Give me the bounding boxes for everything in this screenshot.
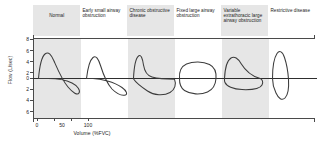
y-axis-tick-label: 4: [26, 97, 29, 103]
x-axis-tick-mark: [37, 118, 38, 121]
x-axis-tick-mark: [88, 118, 89, 121]
panel-header-label: Fixed large airway obstruction: [177, 8, 220, 19]
y-axis-tick-mark: [30, 111, 33, 112]
y-axis-tick-label: 4: [26, 59, 29, 65]
y-axis-tick-mark: [30, 50, 33, 51]
panel-header-label: Variable extrathoracic large airway obst…: [224, 8, 267, 24]
y-axis-tick-mark: [30, 100, 33, 101]
y-axis: Flow (L/sec) 8 6 4 2 0 2 4 6: [0, 39, 33, 118]
x-axis-tick-mark: [54, 118, 55, 121]
y-axis-tick-mark: [30, 72, 33, 73]
x-axis-tick-label: 100: [84, 122, 92, 128]
plot-frame-top: [33, 38, 315, 39]
y-axis-tick-label: 6: [26, 48, 29, 54]
y-axis-tick-mark: [30, 89, 33, 90]
frame-corner-tick: [33, 35, 34, 39]
x-axis: 0 50 100 Volume (%FVC): [33, 118, 153, 146]
zero-flow-baseline: [30, 78, 317, 79]
panel-header-variable-extrathoracic-obstruction: Variable extrathoracic large airway obst…: [221, 5, 268, 36]
x-axis-tick-mark: [71, 118, 72, 121]
flow-volume-loop-figure: Normal Early small airway obstruction Ch…: [0, 0, 325, 159]
y-axis-tick-mark: [30, 39, 33, 40]
panel-header-label: Chronic obstructive disease: [130, 8, 173, 19]
x-axis-tick-label: 50: [59, 122, 65, 128]
panel-header-fixed-large-airway-obstruction: Fixed large airway obstruction: [174, 5, 221, 36]
x-axis-tick-label: 0: [36, 122, 39, 128]
panel-header-label: Early small airway obstruction: [83, 8, 126, 19]
y-axis-tick-mark: [30, 78, 33, 79]
panel-header-early-small-airway-obstruction: Early small airway obstruction: [80, 5, 127, 36]
y-axis-tick-label: 6: [26, 109, 29, 115]
panel-header-restrictive-disease: Restrictive disease: [268, 5, 315, 36]
panel-header-chronic-obstructive-disease: Chronic obstructive disease: [127, 5, 174, 36]
panel-header-strip: Normal Early small airway obstruction Ch…: [33, 5, 315, 36]
y-axis-tick-label-zero: 0: [26, 75, 29, 81]
frame-corner-tick: [314, 35, 315, 39]
panel-header-label: Restrictive disease: [271, 8, 314, 13]
frame-corner-tick: [314, 118, 315, 122]
panel-header-label: Normal: [36, 8, 79, 18]
panel-header-normal: Normal: [33, 5, 80, 36]
y-axis-tick-label: 8: [26, 36, 29, 42]
y-axis-tick-mark: [30, 61, 33, 62]
y-axis-tick-label: 2: [26, 86, 29, 92]
x-axis-label: Volume (%FVC): [33, 130, 151, 136]
y-axis-label: Flow (L/sec): [7, 43, 13, 97]
